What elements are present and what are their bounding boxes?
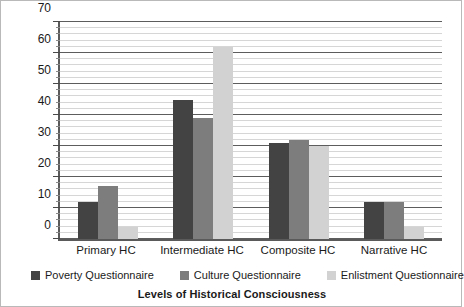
y-tick-label: 50: [38, 63, 51, 77]
bar[interactable]: [118, 227, 138, 239]
bar-group: [251, 22, 347, 239]
legend-label: Poverty Questionnaire: [45, 269, 154, 281]
bar-groups: [60, 22, 442, 239]
y-tick-major: [53, 207, 60, 208]
legend-swatch-icon: [180, 271, 189, 280]
y-tick-major: [53, 83, 60, 84]
legend-item[interactable]: Culture Questionnaire: [180, 269, 301, 281]
bar[interactable]: [364, 202, 384, 239]
y-tick-label: 60: [38, 32, 51, 46]
bar[interactable]: [98, 186, 118, 239]
y-tick-label: 20: [38, 156, 51, 170]
y-tick-label: 30: [38, 125, 51, 139]
x-tick-label: Intermediate HC: [154, 244, 250, 262]
y-tick-major: [53, 176, 60, 177]
bar[interactable]: [213, 47, 233, 239]
bar[interactable]: [193, 118, 213, 239]
bar[interactable]: [404, 227, 424, 239]
bar[interactable]: [309, 146, 329, 239]
y-tick-major: [53, 21, 60, 22]
y-tick-label: 70: [38, 1, 51, 15]
y-tick-major: [53, 145, 60, 146]
legend-swatch-icon: [31, 271, 40, 280]
y-tick-major: [53, 114, 60, 115]
legend-swatch-icon: [327, 271, 336, 280]
chart-legend: Poverty QuestionnaireCulture Questionnai…: [31, 267, 441, 283]
bar[interactable]: [384, 202, 404, 239]
y-tick-major: [53, 52, 60, 53]
y-tick-label: 40: [38, 94, 51, 108]
x-tick-label: Composite HC: [250, 244, 346, 262]
legend-label: Culture Questionnaire: [194, 269, 301, 281]
x-tick-label: Narrative HC: [346, 244, 442, 262]
legend-item[interactable]: Enlistment Questionnaire: [327, 269, 464, 281]
y-tick-label: 0: [44, 218, 51, 232]
legend-item[interactable]: Poverty Questionnaire: [31, 269, 154, 281]
x-tick-label: Primary HC: [58, 244, 154, 262]
bar[interactable]: [173, 100, 193, 240]
bar[interactable]: [289, 140, 309, 239]
y-tick-label: 10: [38, 187, 51, 201]
bar-group: [347, 22, 443, 239]
x-axis-title: Levels of Historical Consciousness: [1, 288, 463, 300]
bar-group: [156, 22, 252, 239]
x-axis-tick-labels: Primary HCIntermediate HCComposite HCNar…: [58, 244, 442, 262]
bar[interactable]: [78, 202, 98, 239]
bar-group: [60, 22, 156, 239]
bar[interactable]: [269, 143, 289, 239]
y-tick-major: [53, 238, 60, 239]
plot-area: 010203040506070: [58, 22, 442, 241]
legend-label: Enlistment Questionnaire: [341, 269, 464, 281]
